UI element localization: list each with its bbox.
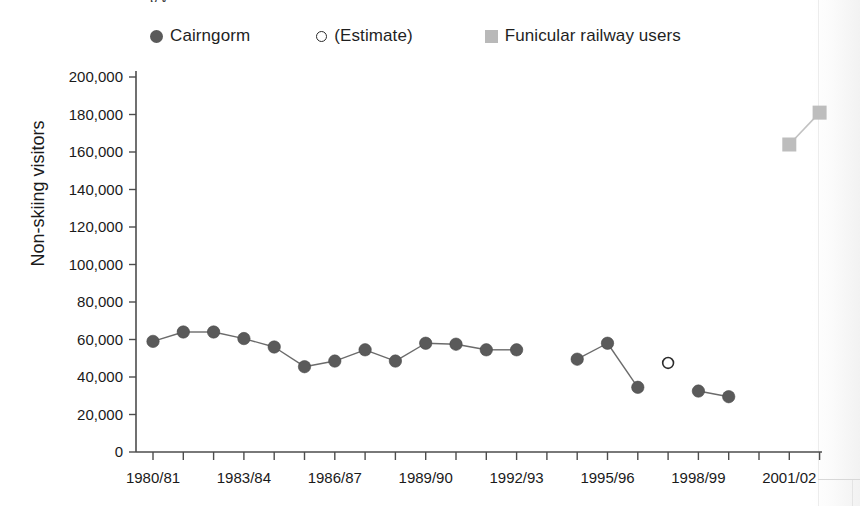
y-tick-label: 140,000 [69, 181, 123, 198]
data-point-cairngorm [359, 344, 371, 356]
data-point-cairngorm [177, 326, 189, 338]
y-tick-label: 100,000 [69, 256, 123, 273]
data-point-cairngorm [480, 344, 492, 356]
data-point-estimate [663, 358, 674, 369]
y-tick-label: 180,000 [69, 106, 123, 123]
y-tick-label: 0 [115, 443, 123, 460]
y-tick-label: 120,000 [69, 218, 123, 235]
data-point-funicular [813, 106, 827, 120]
data-point-cairngorm [571, 353, 583, 365]
data-point-cairngorm [329, 355, 341, 367]
x-tick-label: 2001/02 [762, 469, 816, 486]
y-tick-label: 20,000 [77, 406, 123, 423]
x-tick-label: 1980/81 [126, 469, 180, 486]
x-tick-label: 1989/90 [399, 469, 453, 486]
data-point-cairngorm [632, 381, 644, 393]
x-tick-label: 1992/93 [489, 469, 543, 486]
x-tick-label: 1983/84 [217, 469, 271, 486]
x-tick-label: 1998/99 [671, 469, 725, 486]
x-tick-label: 1986/87 [308, 469, 362, 486]
y-tick-label: 80,000 [77, 293, 123, 310]
chart-plot-area: 020,00040,00060,00080,000100,000120,0001… [0, 0, 860, 506]
data-point-cairngorm [238, 332, 250, 344]
data-point-cairngorm [450, 338, 462, 350]
series-segment [608, 343, 638, 387]
y-tick-label: 40,000 [77, 368, 123, 385]
data-point-cairngorm [601, 337, 613, 349]
y-tick-label: 160,000 [69, 143, 123, 160]
x-tick-label: 1995/96 [580, 469, 634, 486]
data-point-cairngorm [268, 341, 280, 353]
data-point-cairngorm [510, 344, 522, 356]
data-point-cairngorm [389, 355, 401, 367]
data-point-cairngorm [420, 337, 432, 349]
x-axis-ticks: 1980/811983/841986/871989/901992/931995/… [126, 452, 820, 486]
data-point-cairngorm [298, 360, 310, 372]
data-point-cairngorm [692, 385, 704, 397]
data-point-cairngorm [207, 326, 219, 338]
y-axis-ticks: 020,00040,00060,00080,000100,000120,0001… [69, 68, 136, 460]
y-tick-label: 60,000 [77, 331, 123, 348]
data-point-cairngorm [723, 390, 735, 402]
chart-canvas: 020,00040,00060,00080,000100,000120,0001… [0, 0, 860, 506]
data-point-funicular [782, 138, 796, 152]
y-tick-label: 200,000 [69, 68, 123, 85]
data-series-group [147, 106, 827, 403]
data-point-cairngorm [147, 335, 159, 347]
